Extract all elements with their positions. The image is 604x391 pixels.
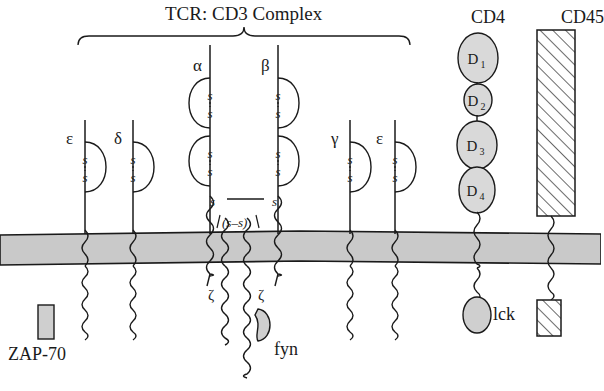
cytoplasmic-tail-beta [275, 274, 278, 286]
disulfide-s-lower-beta-1: s [275, 106, 280, 121]
cd4-domain-label-1: D [468, 51, 479, 67]
chain-label-epsilon-2: ε [376, 130, 383, 147]
zap70-molecule [38, 305, 54, 339]
zeta-zeta-disulfide: (s–s) [222, 216, 247, 229]
complex-bracket [78, 27, 410, 45]
lck-label: lck [493, 305, 515, 323]
disulfide-s-upper-epsilon-2-1: s [392, 152, 397, 167]
disulfide-s-lower-delta-1: s [130, 170, 135, 185]
disulfide-s-upper-alpha-2: s [207, 146, 212, 161]
disulfide-s-upper-delta-1: s [130, 152, 135, 167]
disulfide-s-upper-beta-2: s [275, 146, 280, 161]
disulfide-s-lower-beta-2: s [275, 164, 280, 179]
cytoplasmic-tail-zeta-1 [222, 266, 229, 345]
fyn-kinase [255, 309, 270, 341]
disulfide-s-upper-beta-1: s [275, 88, 280, 103]
disulfide-loop-epsilon-1 [85, 142, 106, 192]
disulfide-s-upper-gamma-1: s [347, 152, 352, 167]
disulfide-s-upper-alpha-1: s [207, 88, 212, 103]
disulfide-loop-delta-1 [133, 142, 154, 192]
cd4-domain-sub-3: 3 [480, 146, 485, 157]
cytoplasmic-tail-delta [130, 266, 136, 340]
disulfide-loop-epsilon-2-1 [395, 142, 416, 192]
cytoplasmic-tail-zeta-2 [244, 266, 251, 378]
cd4-label: CD4 [471, 8, 505, 26]
chain-label-beta: β [261, 57, 270, 74]
chain-label-delta: δ [114, 130, 122, 147]
chain-label-epsilon: ε [66, 130, 73, 147]
cytoplasmic-tail-epsilon [82, 266, 88, 340]
zap70-label: ZAP-70 [8, 345, 66, 363]
disulfide-s-lower-alpha-2: s [207, 164, 212, 179]
cytoplasmic-tail-epsilon-2 [392, 266, 398, 340]
cytoplasmic-tail-alpha [207, 274, 210, 286]
cd4-domain-label-3: D [467, 138, 478, 154]
cd4-domain-sub-2: 2 [481, 101, 486, 112]
cd4-domain-sub-4: 4 [480, 191, 485, 202]
alpha-beta-disulfide-right: s [272, 195, 277, 208]
cd45-label: CD45 [561, 8, 604, 26]
cd4-domain-sub-1: 1 [481, 59, 486, 70]
cd4-cytoplasmic-tail [474, 268, 480, 301]
zeta-bond-tick-left [217, 215, 220, 228]
cd45-cytoplasmic-hatch [537, 300, 561, 336]
cd45-ectodomain-hatch [537, 30, 575, 216]
disulfide-s-upper-epsilon-1: s [82, 152, 87, 167]
cytoplasmic-tail-gamma [347, 266, 353, 340]
chain-label-alpha: α [193, 57, 202, 74]
plasma-membrane [0, 231, 601, 265]
chain-label-gamma: γ [331, 130, 339, 147]
cd4-domain-label-2: D [468, 93, 479, 109]
lck-kinase [463, 297, 491, 333]
cd4-domain-label-4: D [467, 183, 478, 199]
disulfide-s-lower-gamma-1: s [347, 170, 352, 185]
cd45-cytoplasmic-linker [548, 268, 554, 300]
zeta-chain-label-2: ζ [258, 288, 264, 303]
disulfide-s-lower-alpha-1: s [207, 106, 212, 121]
disulfide-s-lower-epsilon-1: s [82, 170, 87, 185]
zeta-chain-label-1: ζ [208, 288, 214, 303]
disulfide-loop-beta-2 [278, 136, 299, 186]
fyn-label: fyn [274, 340, 298, 358]
diagram-title: TCR: CD3 Complex [165, 4, 322, 23]
disulfide-s-lower-epsilon-2-1: s [392, 170, 397, 185]
zeta-bond-tick-right [256, 215, 259, 228]
disulfide-loop-gamma-1 [350, 142, 371, 192]
alpha-beta-disulfide-left: s [210, 195, 215, 208]
disulfide-loop-beta-1 [278, 78, 299, 128]
